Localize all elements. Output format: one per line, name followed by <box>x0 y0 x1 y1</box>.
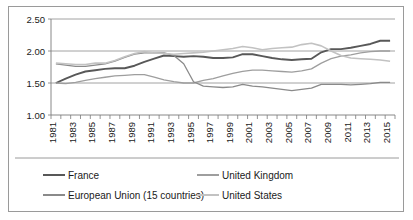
x-tick-label: 2001 <box>243 122 254 143</box>
chart-plot-region: 1.001.502.002.50 19811983198519871989199… <box>9 7 405 213</box>
legend-label-united-states: United States <box>222 190 282 201</box>
x-tick-label: 1987 <box>106 122 117 143</box>
x-tick-label: 1997 <box>204 122 215 143</box>
x-tick-label: 2013 <box>361 122 372 143</box>
y-tick-label: 1.00 <box>27 110 46 121</box>
x-tick-label: 2003 <box>263 122 274 143</box>
x-tick-label: 1981 <box>47 122 58 143</box>
y-tick-labels-group: 1.001.502.002.50 <box>27 14 46 121</box>
x-tick-label: 2005 <box>283 122 294 143</box>
y-tick-label: 2.50 <box>27 14 46 25</box>
x-tick-label: 2009 <box>322 122 333 143</box>
x-tick-labels-group: 1981198319851987198919911993199519971999… <box>47 122 392 143</box>
series-line-united-states <box>56 43 390 64</box>
x-tick-label: 1989 <box>126 122 137 143</box>
x-tick-label: 2011 <box>342 122 353 142</box>
legend-group: FranceUnited KingdomEuropean Union (15 c… <box>15 158 399 201</box>
legend-label-france: France <box>68 170 100 181</box>
x-tick-label: 1991 <box>145 122 156 143</box>
y-tick-label: 1.50 <box>27 78 46 89</box>
x-tick-label: 2015 <box>381 122 392 143</box>
legend-label-united-kingdom: United Kingdom <box>222 170 293 181</box>
legend-label-european-union-15-countries: European Union (15 countries) <box>68 190 204 201</box>
x-tick-label: 1995 <box>185 122 196 143</box>
y-axis-line-group <box>48 19 51 115</box>
x-tick-label: 1999 <box>224 122 235 143</box>
gridlines-group <box>51 19 395 83</box>
chart-frame: 1.001.502.002.50 19811983198519871989199… <box>8 6 404 212</box>
x-tick-label: 1983 <box>67 122 78 143</box>
y-tick-label: 2.00 <box>27 46 46 57</box>
x-axis-group <box>51 115 395 119</box>
x-tick-label: 1993 <box>165 122 176 143</box>
fertility-rate-line-chart: 1.001.502.002.50 19811983198519871989199… <box>9 7 405 213</box>
x-tick-label: 1985 <box>86 122 97 143</box>
x-tick-label: 2007 <box>302 122 313 143</box>
